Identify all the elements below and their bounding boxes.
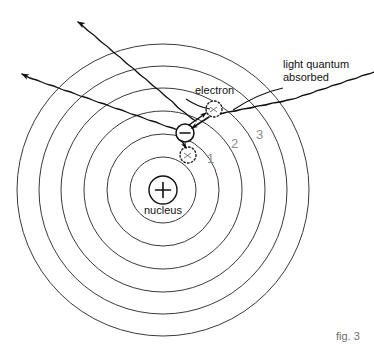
bohr-atom-figure: nucleus electron light quantum absorbed … xyxy=(0,0,374,348)
light-quantum-label-line2: absorbed xyxy=(283,71,329,84)
figure-caption: fig. 3 xyxy=(336,330,360,342)
shell-label-1: 1 xyxy=(207,152,214,165)
light-quantum-label-line1: light quantum xyxy=(283,58,349,71)
arrow-down-from-shell3 xyxy=(192,117,209,128)
atom-diagram-svg xyxy=(0,0,374,348)
nucleus-symbol xyxy=(149,176,177,204)
nucleus-label: nucleus xyxy=(144,204,182,217)
electron-current-position xyxy=(176,124,194,142)
electron-label: electron xyxy=(195,84,234,97)
light-quantum-label-leader xyxy=(233,88,283,110)
ghost-electron-shell1 xyxy=(180,147,196,163)
shell-label-2: 2 xyxy=(231,137,238,150)
emitted-photon-1 xyxy=(78,22,196,121)
emitted-photon-2 xyxy=(22,74,186,133)
shell-label-3: 3 xyxy=(256,128,263,141)
